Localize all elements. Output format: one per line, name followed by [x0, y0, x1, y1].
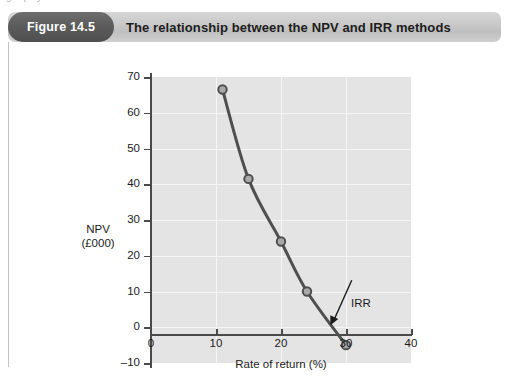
grid-line-vertical — [346, 77, 347, 363]
y-axis-tick-label: 20 — [106, 250, 140, 261]
y-axis-tick — [144, 363, 150, 365]
figure-title: The relationship between the NPV and IRR… — [126, 12, 451, 42]
npv-irr-chart: NPV (£000) Rate of return (%) IRR –10010… — [9, 42, 502, 367]
y-axis-tick-label: –10 — [106, 357, 140, 368]
chart-plot-area — [151, 77, 411, 363]
y-axis-title-line-2: (£000) — [59, 236, 137, 250]
figure-container: Figure 14.5 The relationship between the… — [8, 12, 501, 367]
y-axis-tick — [144, 292, 150, 294]
y-axis-tick-label: 40 — [106, 178, 140, 189]
y-axis-tick-label: 50 — [106, 143, 140, 154]
y-axis-tick-label: 0 — [106, 321, 140, 332]
y-axis-tick — [144, 113, 150, 115]
x-axis-tick-label: 0 — [136, 338, 166, 349]
y-axis-tick — [144, 327, 150, 329]
figure-number-badge: Figure 14.5 — [8, 12, 114, 42]
y-axis-tick-label: 30 — [106, 214, 140, 225]
y-axis-tick-label: 10 — [106, 286, 140, 297]
x-axis-tick — [216, 329, 218, 335]
y-axis-tick — [144, 256, 150, 258]
y-axis-title: NPV (£000) — [59, 222, 137, 250]
page-top-text-fragment-label: graphy — [6, 0, 66, 1]
x-axis-tick — [346, 329, 348, 335]
x-axis-tick-label: 30 — [331, 338, 361, 349]
irr-annotation-label: IRR — [351, 297, 371, 309]
y-axis-line — [150, 73, 152, 368]
y-axis-tick — [144, 77, 150, 79]
page-top-text-fragment: graphy — [6, 0, 66, 9]
x-axis-tick-label: 20 — [266, 338, 296, 349]
x-axis-title: Rate of return (%) — [191, 358, 371, 370]
x-axis-tick-label: 40 — [396, 338, 426, 349]
y-axis-tick-label: 70 — [106, 71, 140, 82]
grid-line-vertical — [281, 77, 282, 363]
x-axis-tick — [411, 329, 413, 335]
x-axis-tick-label: 10 — [201, 338, 231, 349]
y-axis-tick — [144, 149, 150, 151]
y-axis-tick-label: 60 — [106, 107, 140, 118]
grid-line-vertical — [216, 77, 217, 363]
figure-header: Figure 14.5 The relationship between the… — [8, 12, 501, 42]
figure-body: NPV (£000) Rate of return (%) IRR –10010… — [8, 42, 501, 367]
x-axis-tick — [281, 329, 283, 335]
y-axis-tick — [144, 184, 150, 186]
y-axis-tick — [144, 220, 150, 222]
